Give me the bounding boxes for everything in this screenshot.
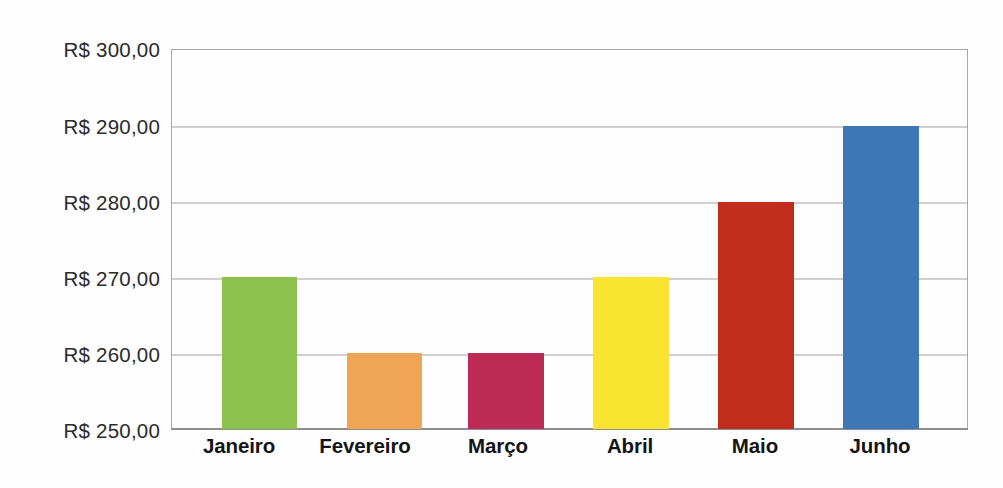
y-axis-tick-label: R$ 250,00 — [0, 421, 160, 442]
x-axis-label-janeiro: Janeiro — [184, 434, 294, 458]
bar-fill — [468, 353, 544, 429]
bar-maio[interactable] — [718, 202, 794, 429]
bar-fill — [593, 277, 669, 429]
bar-fill — [347, 353, 422, 429]
bar-abril[interactable] — [593, 277, 669, 429]
x-axis-label-marco: Março — [443, 434, 553, 458]
bar-fevereiro[interactable] — [347, 353, 422, 429]
bar-fill — [718, 202, 794, 429]
x-axis-label-maio: Maio — [700, 434, 810, 458]
y-axis-tick-label: R$ 290,00 — [0, 117, 160, 138]
x-axis-label-fevereiro: Fevereiro — [300, 434, 430, 458]
plot-area — [171, 49, 968, 430]
x-axis-label-abril: Abril — [575, 434, 685, 458]
bar-marco[interactable] — [468, 353, 544, 429]
y-axis-tick-label: R$ 300,00 — [0, 40, 160, 61]
x-axis-label-junho: Junho — [825, 434, 935, 458]
y-axis-tick-label: R$ 280,00 — [0, 193, 160, 214]
bar-chart: R$ 300,00 R$ 290,00 R$ 280,00 R$ 270,00 … — [0, 0, 1003, 488]
bar-fill — [843, 126, 919, 429]
bar-fill — [222, 277, 297, 429]
y-axis-tick-label: R$ 270,00 — [0, 269, 160, 290]
bar-junho[interactable] — [843, 126, 919, 429]
bar-janeiro[interactable] — [222, 277, 297, 429]
y-axis-tick-label: R$ 260,00 — [0, 345, 160, 366]
bar-series — [171, 49, 968, 430]
